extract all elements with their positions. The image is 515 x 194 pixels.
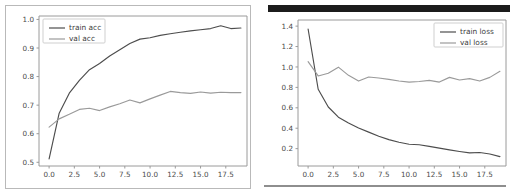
- x-tick-label: 17.5: [218, 170, 234, 179]
- x-tick-label: 0.0: [43, 170, 55, 179]
- loss-plot: 0.20.40.60.81.01.21.40.02.55.07.510.012.…: [258, 0, 515, 194]
- x-tick-label: 5.0: [94, 170, 106, 179]
- y-tick-label: 0.6: [282, 103, 294, 112]
- y-tick-label: 1.0: [282, 63, 294, 72]
- y-tick-label: 1.2: [282, 42, 293, 51]
- x-tick-label: 15.0: [193, 170, 209, 179]
- y-tick-label: 1.4: [282, 22, 294, 31]
- y-tick-label: 0.9: [23, 44, 35, 53]
- x-tick-label: 2.5: [69, 170, 80, 179]
- y-tick-label: 0.4: [282, 124, 294, 133]
- y-tick-label: 0.5: [23, 158, 34, 167]
- x-tick-label: 0.0: [302, 170, 314, 179]
- x-tick-label: 10.0: [401, 170, 417, 179]
- loss-chart-panel: 0.20.40.60.81.01.21.40.02.55.07.510.012.…: [258, 0, 515, 194]
- y-tick-label: 1.0: [23, 15, 35, 24]
- y-tick-label: 0.2: [282, 144, 293, 153]
- x-tick-label: 12.5: [426, 170, 442, 179]
- y-tick-label: 0.7: [23, 101, 34, 110]
- series-line-train-acc: [49, 26, 241, 159]
- x-tick-label: 7.5: [378, 170, 389, 179]
- x-tick-label: 7.5: [119, 170, 130, 179]
- series-line-train-loss: [308, 29, 500, 157]
- series-line-val-acc: [49, 91, 241, 127]
- x-tick-label: 5.0: [353, 170, 365, 179]
- y-tick-label: 0.8: [282, 83, 294, 92]
- legend-label-train-loss: train loss: [460, 27, 494, 36]
- legend-label-val-loss: val loss: [460, 38, 488, 47]
- accuracy-plot: 0.50.60.70.80.91.00.02.55.07.510.012.515…: [0, 0, 256, 194]
- x-tick-label: 12.5: [167, 170, 183, 179]
- legend-label-val-acc: val acc: [69, 34, 95, 43]
- accuracy-chart-panel: 0.50.60.70.80.91.00.02.55.07.510.012.515…: [0, 0, 256, 194]
- y-tick-label: 0.8: [23, 72, 35, 81]
- y-tick-label: 0.6: [23, 129, 35, 138]
- x-tick-label: 17.5: [477, 170, 493, 179]
- x-tick-label: 2.5: [328, 170, 339, 179]
- legend-label-train-acc: train acc: [69, 23, 101, 32]
- x-tick-label: 15.0: [452, 170, 468, 179]
- figure-root: 0.50.60.70.80.91.00.02.55.07.510.012.515…: [0, 0, 515, 194]
- x-tick-label: 10.0: [142, 170, 158, 179]
- series-line-val-loss: [308, 62, 500, 82]
